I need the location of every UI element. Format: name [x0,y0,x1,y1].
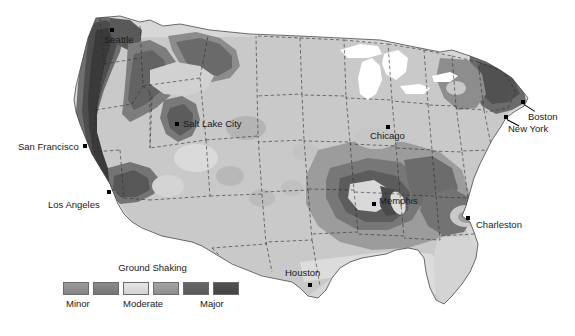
legend-title: Ground Shaking [60,262,245,273]
legend-label-minor: Minor [66,298,90,309]
legend-label-major: Major [200,298,224,309]
legend-swatch-5 [183,282,209,295]
city-label-san-francisco: San Francisco [18,142,79,152]
city-label-los-angeles: Los Angeles [48,200,100,210]
city-dot-memphis [372,202,376,206]
city-dot-houston [308,283,312,287]
city-label-chicago: Chicago [370,131,405,141]
city-label-houston: Houston [285,268,320,278]
hazard-patch-colorado-light [174,144,218,172]
city-dot-seattle [110,28,114,32]
city-dot-san-francisco [83,144,87,148]
legend: Ground Shaking Minor Moderate Major [60,262,245,312]
legend-swatches [63,282,239,295]
seismic-hazard-figure: Seattle San Francisco Los Angeles Salt L… [0,0,575,336]
city-label-salt-lake-city: Salt Lake City [183,119,242,129]
city-dot-chicago [386,125,390,129]
hazard-patch-arizona-light [152,175,184,197]
hazard-patch-colorado [216,166,244,186]
city-label-charleston: Charleston [476,220,522,230]
legend-swatch-6 [213,282,239,295]
city-label-boston: Boston [528,112,558,122]
city-dot-charleston [466,216,470,220]
hazard-patch-adirondack [446,81,466,95]
city-label-seattle: Seattle [104,35,134,45]
city-label-new-york: New York [508,124,548,134]
city-dot-salt-lake-city [175,122,179,126]
legend-swatch-3 [123,282,149,295]
legend-swatch-4 [153,282,179,295]
hazard-patch-tx-panhandle [281,180,303,196]
legend-label-moderate: Moderate [123,298,163,309]
legend-labels: Minor Moderate Major [60,298,250,310]
legend-swatch-2 [93,282,119,295]
hazard-zone-florida [434,236,478,304]
city-dot-los-angeles [107,190,111,194]
city-label-memphis: Memphis [379,196,418,206]
legend-swatch-1 [63,282,89,295]
